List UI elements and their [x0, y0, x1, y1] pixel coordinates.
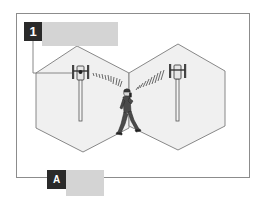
callout-badge-1: 1: [24, 22, 42, 41]
callout-text-bar-1: [42, 22, 118, 46]
callout-badge-a: A: [47, 170, 66, 189]
callout-text-bar-a: [66, 170, 104, 196]
